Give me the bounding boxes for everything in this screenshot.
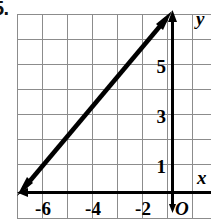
x-axis xyxy=(17,188,211,197)
x-tick-label-neg6: -6 xyxy=(22,199,64,218)
x-tick-label-neg4: -4 xyxy=(72,199,114,218)
origin-label: O xyxy=(175,199,189,218)
coordinate-plane-svg xyxy=(0,0,211,224)
y-tick-label-1: 1 xyxy=(146,157,166,176)
y-axis xyxy=(168,10,177,213)
y-axis-label: y xyxy=(196,9,204,28)
graph-figure: 5. xyxy=(0,0,211,224)
y-tick-label-3: 3 xyxy=(146,107,166,126)
grid-lines xyxy=(17,14,211,219)
x-tick-label-neg2: -2 xyxy=(122,199,164,218)
y-tick-label-5: 5 xyxy=(146,57,166,76)
x-axis-label: x xyxy=(197,168,207,187)
coordinate-plane: 5 3 1 -6 -4 -2 O y x xyxy=(0,0,211,224)
